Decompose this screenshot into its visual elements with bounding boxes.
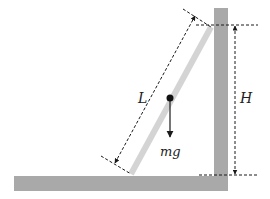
diagram-canvas: L H mg — [0, 0, 270, 199]
length-tick-bottom — [101, 156, 131, 174]
height-label: H — [239, 90, 253, 106]
ladder-diagram: L H mg — [0, 0, 270, 199]
wall — [214, 8, 228, 191]
center-of-mass — [167, 95, 174, 102]
length-label: L — [137, 90, 147, 106]
length-dimension — [101, 9, 211, 174]
weight-label: mg — [160, 144, 181, 159]
length-tick-top — [183, 9, 211, 27]
floor — [14, 176, 228, 191]
